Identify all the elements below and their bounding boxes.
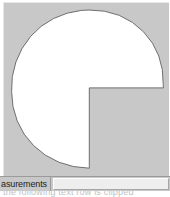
shape-viewport[interactable] [3,2,169,176]
measurements-label: asurements [0,177,51,191]
measurements-field[interactable] [53,178,169,190]
shape-canvas-svg[interactable] [3,2,169,176]
three-quarter-disc-shape[interactable] [12,10,164,168]
clipped-text-row: the following text row is clipped [0,191,170,197]
clipped-text-label: the following text row is clipped [3,191,134,197]
measurements-bar: asurements [0,176,170,191]
app-root: asurements the following text row is cli… [0,0,170,197]
